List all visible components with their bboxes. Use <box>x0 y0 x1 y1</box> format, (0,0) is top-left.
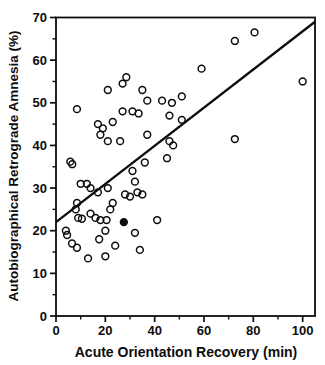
data-point <box>129 168 136 175</box>
data-point <box>107 206 114 213</box>
data-point <box>74 244 81 251</box>
data-point <box>97 131 104 138</box>
data-point <box>251 29 258 36</box>
y-tick-label: 30 <box>33 181 47 196</box>
y-tick-label: 10 <box>33 266 47 281</box>
y-axis-title: Autobiographical Retrograde Amnesia (%) <box>6 30 21 301</box>
y-tick-label: 70 <box>33 10 47 25</box>
data-point <box>198 65 205 72</box>
data-point <box>132 178 139 185</box>
x-tick-label: 0 <box>52 323 59 338</box>
data-point <box>119 80 126 87</box>
data-point <box>102 253 109 260</box>
data-point <box>141 159 148 166</box>
x-axis-title: Acute Orientation Recovery (min) <box>75 344 298 360</box>
data-point <box>74 106 81 113</box>
scatter-chart: 020406080100010203040506070 <box>0 0 325 365</box>
data-point <box>144 97 151 104</box>
data-point <box>178 116 185 123</box>
data-point <box>166 112 173 119</box>
y-tick-label: 50 <box>33 95 47 110</box>
y-tick-label: 0 <box>40 309 47 324</box>
data-point <box>123 74 130 81</box>
data-point <box>178 93 185 100</box>
x-tick-label: 40 <box>147 323 161 338</box>
data-point <box>104 87 111 94</box>
data-point <box>104 138 111 145</box>
y-tick-label: 20 <box>33 223 47 238</box>
data-point <box>104 185 111 192</box>
data-point <box>117 138 124 145</box>
data-point <box>144 131 151 138</box>
data-point <box>299 78 306 85</box>
y-tick-label: 40 <box>33 138 47 153</box>
data-point <box>159 97 166 104</box>
data-point <box>102 227 109 234</box>
data-point <box>231 136 238 143</box>
data-point <box>166 138 173 145</box>
plot-frame <box>56 18 315 317</box>
data-point <box>87 185 94 192</box>
data-point <box>96 236 103 243</box>
data-point <box>169 99 176 106</box>
data-point <box>109 119 116 126</box>
data-point <box>231 38 238 45</box>
x-tick-label: 60 <box>197 323 211 338</box>
x-tick-label: 20 <box>98 323 112 338</box>
data-point-filled <box>120 219 127 226</box>
data-point <box>85 255 92 262</box>
data-point <box>112 242 119 249</box>
data-point <box>132 229 139 236</box>
data-point <box>139 87 146 94</box>
x-tick-label: 100 <box>292 323 314 338</box>
data-point <box>136 247 143 254</box>
data-point <box>119 108 126 115</box>
x-tick-label: 80 <box>246 323 260 338</box>
y-tick-label: 60 <box>33 53 47 68</box>
data-point <box>135 110 142 117</box>
data-point <box>164 155 171 162</box>
data-point <box>154 217 161 224</box>
data-point <box>170 142 177 149</box>
data-point <box>64 232 71 239</box>
scatter-plot-figure: 020406080100010203040506070 Autobiograph… <box>0 0 325 365</box>
